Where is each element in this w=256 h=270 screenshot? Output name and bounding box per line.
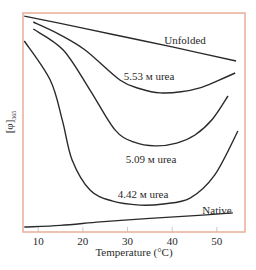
series-line-5-09-m-urea [33, 29, 228, 146]
series-labels: Unfolded5.53 м urea5.09 м urea4.42 м ure… [118, 34, 232, 216]
x-tick-label: 50 [211, 235, 223, 247]
series-label-5-09-m-urea: 5.09 м urea [126, 153, 177, 165]
series-label-4-42-m-urea: 4.42 м urea [118, 188, 169, 200]
x-ticks [38, 227, 217, 232]
series-label-5-53-m-urea: 5.53 м urea [124, 70, 175, 82]
x-axis-label: Temperature (°C) [95, 246, 173, 259]
chart: Unfolded5.53 м urea5.09 м urea4.42 м ure… [0, 0, 256, 270]
svg-text:[φ]365: [φ]365 [3, 111, 17, 134]
x-tick-label: 20 [77, 235, 89, 247]
series-label-unfolded: Unfolded [164, 34, 206, 46]
y-axis-label: [φ]365 [3, 111, 17, 134]
x-tick-label: 10 [33, 235, 45, 247]
series-line-5-53-m-urea [33, 22, 235, 93]
series-line-4-42-m-urea [24, 41, 238, 205]
series-label-native: Native [202, 204, 231, 216]
